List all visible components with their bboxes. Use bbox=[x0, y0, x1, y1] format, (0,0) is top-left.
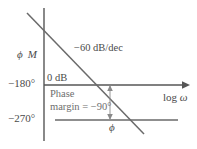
y-tick-label-270: −270° bbox=[8, 113, 35, 124]
bode-plot-figure: ϕM −180° −270° 0 dB −60 dB/dec log ω Pha… bbox=[0, 0, 197, 149]
x-axis-label-prefix: log bbox=[163, 91, 177, 103]
phase-margin-arrowhead-up bbox=[107, 85, 113, 91]
phase-margin-label-line2: margin = −90° bbox=[50, 102, 111, 113]
phase-curve-label: ϕ bbox=[109, 122, 115, 133]
bode-plot-canvas bbox=[0, 0, 197, 149]
horizontal-axis-arrowhead bbox=[182, 81, 190, 89]
y-axis-label: ϕM bbox=[17, 49, 37, 60]
phase-margin-arrowhead-down bbox=[107, 114, 113, 120]
x-axis-label-variable: ω bbox=[180, 91, 188, 103]
phase-margin-label-line1: Phase bbox=[50, 89, 75, 100]
slope-annotation-label: −60 dB/dec bbox=[74, 43, 123, 54]
y-axis-label-magnitude: M bbox=[28, 48, 37, 60]
x-axis-label: log ω bbox=[163, 92, 188, 103]
y-axis-label-phase: ϕ bbox=[17, 48, 23, 60]
zero-db-label: 0 dB bbox=[47, 73, 67, 84]
y-tick-label-180: −180° bbox=[8, 78, 35, 89]
